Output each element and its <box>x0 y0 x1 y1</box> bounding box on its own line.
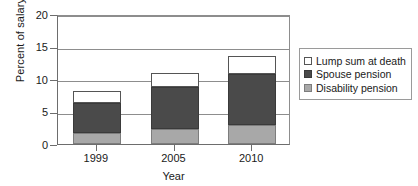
y-tick-label: 20 <box>22 10 48 21</box>
x-tick-label: 2010 <box>221 153 281 164</box>
legend-item: Spouse pension <box>304 68 406 80</box>
bar-segment <box>228 56 276 74</box>
y-tick-label: 15 <box>22 42 48 53</box>
y-tick-label: 5 <box>22 107 48 118</box>
x-tick <box>251 145 252 151</box>
legend-item-label: Lump sum at death <box>316 55 406 67</box>
bar-1999 <box>73 14 121 144</box>
y-tick <box>50 48 57 49</box>
y-tick-label: 10 <box>22 75 48 86</box>
bar-segment <box>73 103 121 133</box>
legend-swatch-icon <box>304 84 312 92</box>
bar-2005 <box>151 14 199 144</box>
legend-item: Disability pension <box>304 82 406 94</box>
y-tick <box>50 15 57 16</box>
x-tick <box>96 145 97 151</box>
bar-segment <box>228 125 276 144</box>
bar-segment <box>151 129 199 144</box>
bar-segment <box>73 91 121 103</box>
x-tick <box>174 145 175 151</box>
plot-area <box>57 15 290 145</box>
bar-chart: Percent of salary 05101520 199920052010 … <box>0 0 418 186</box>
y-tick-label: 0 <box>22 140 48 151</box>
x-tick-label: 2005 <box>144 153 204 164</box>
x-tick-label: 1999 <box>66 153 126 164</box>
y-tick <box>50 113 57 114</box>
bar-2010 <box>228 14 276 144</box>
bar-segment <box>151 87 199 129</box>
bar-segment <box>73 133 121 144</box>
bar-segment <box>228 74 276 125</box>
x-axis-title: Year <box>57 170 290 182</box>
legend-swatch-icon <box>304 57 312 65</box>
y-tick <box>50 80 57 81</box>
legend-item: Lump sum at death <box>304 55 406 67</box>
bar-segment <box>151 73 199 87</box>
chart-legend: Lump sum at deathSpouse pensionDisabilit… <box>299 48 412 100</box>
legend-item-label: Spouse pension <box>316 68 391 80</box>
legend-swatch-icon <box>304 70 312 78</box>
y-tick <box>50 145 57 146</box>
legend-item-label: Disability pension <box>316 82 398 94</box>
